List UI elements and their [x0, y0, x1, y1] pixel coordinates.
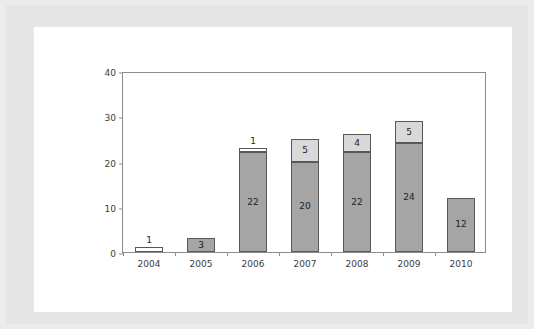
x-axis-tick — [175, 252, 176, 256]
bar-2010[interactable]: 12 — [447, 198, 475, 252]
x-axis-category-label: 2010 — [450, 259, 473, 269]
bar-segment-value: 22 — [351, 198, 362, 207]
y-axis-tick — [119, 163, 123, 164]
bar-segment-lower[interactable]: 12 — [447, 198, 475, 252]
bar-segment-value: 22 — [247, 198, 258, 207]
bar-segment-lower[interactable]: 22 — [239, 152, 267, 252]
bar-2004[interactable]: 1 — [135, 247, 163, 252]
bar-segment-value: 24 — [403, 193, 414, 202]
plot-inner: 0102030402004120053200622120072052008224… — [123, 73, 485, 252]
bar-segment-value: 4 — [354, 139, 360, 148]
x-axis-category-label: 2004 — [138, 259, 161, 269]
bar-segment-lower[interactable]: 20 — [291, 162, 319, 253]
y-axis-tick-label: 30 — [105, 113, 116, 123]
x-axis-category-label: 2007 — [294, 259, 317, 269]
x-axis-category-label: 2005 — [190, 259, 213, 269]
bar-segment-upper[interactable] — [239, 148, 267, 153]
bar-segment-value: 12 — [455, 220, 466, 229]
x-axis-tick — [227, 252, 228, 256]
bar-segment-value: 20 — [299, 202, 310, 211]
x-axis-tick — [383, 252, 384, 256]
bar-segment-upper[interactable]: 5 — [291, 139, 319, 162]
bar-value-label-outside: 1 — [250, 136, 256, 146]
bar-segment-lower[interactable]: 24 — [395, 143, 423, 252]
screenshot-page: 0102030402004120053200622120072052008224… — [0, 0, 534, 329]
bar-2008[interactable]: 224 — [343, 134, 371, 252]
bar-segment-upper[interactable] — [135, 247, 163, 252]
bar-2009[interactable]: 245 — [395, 121, 423, 252]
x-axis-tick — [123, 252, 124, 256]
x-axis-tick — [279, 252, 280, 256]
plot-area: 0102030402004120053200622120072052008224… — [122, 72, 486, 253]
y-axis-tick-label: 10 — [105, 204, 116, 214]
x-axis-category-label: 2009 — [398, 259, 421, 269]
bar-2005[interactable]: 3 — [187, 238, 215, 252]
bar-segment-value: 5 — [302, 146, 308, 155]
bar-segment-value: 5 — [406, 128, 412, 137]
bar-segment-value: 3 — [198, 241, 204, 250]
document-border: 0102030402004120053200622120072052008224… — [6, 5, 528, 324]
bar-segment-lower[interactable]: 3 — [187, 238, 215, 252]
x-axis-tick — [435, 252, 436, 256]
bar-segment-lower[interactable]: 22 — [343, 152, 371, 252]
y-axis-tick — [119, 208, 123, 209]
bar-segment-upper[interactable]: 4 — [343, 134, 371, 152]
bar-2006[interactable]: 221 — [239, 148, 267, 252]
y-axis-tick-label: 40 — [105, 68, 116, 78]
x-axis-category-label: 2006 — [242, 259, 265, 269]
y-axis-tick — [119, 73, 123, 74]
bar-2007[interactable]: 205 — [291, 139, 319, 252]
x-axis-tick — [331, 252, 332, 256]
bar-segment-upper[interactable]: 5 — [395, 121, 423, 144]
bar-value-label-outside: 1 — [146, 235, 152, 245]
y-axis-tick-label: 0 — [110, 249, 116, 259]
chart-canvas: 0102030402004120053200622120072052008224… — [34, 27, 512, 312]
y-axis-tick — [119, 118, 123, 119]
y-axis-tick-label: 20 — [105, 159, 116, 169]
x-axis-category-label: 2008 — [346, 259, 369, 269]
